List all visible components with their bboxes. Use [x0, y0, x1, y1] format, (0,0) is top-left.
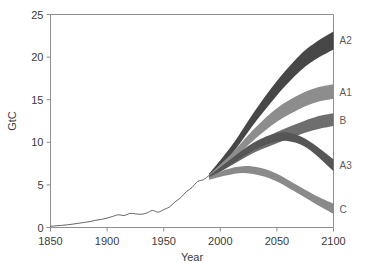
y-tick-label: 0 [37, 222, 43, 234]
series-label-a3: A3 [340, 160, 353, 171]
scenario-bands [209, 32, 334, 214]
y-tick-label: 5 [37, 179, 43, 191]
y-tick-label: 25 [31, 9, 43, 21]
x-tick-label: 2000 [208, 235, 232, 247]
scenario-band-a2 [209, 32, 334, 178]
series-label-a2: A2 [340, 35, 353, 46]
series-label-b: B [340, 115, 347, 126]
y-axis-title: GtC [6, 111, 18, 131]
historical-line-path [51, 176, 209, 227]
x-tick-label: 2100 [321, 235, 345, 247]
x-tick-label: 1850 [38, 235, 62, 247]
series-label-a1: A1 [340, 87, 353, 98]
series-label-c: C [340, 204, 347, 215]
chart-canvas: 0510152025 185019001950200020502100 A2A1… [0, 0, 366, 263]
y-axis-ticks: 0510152025 [31, 9, 50, 234]
y-tick-label: 10 [31, 136, 43, 148]
y-tick-label: 15 [31, 94, 43, 106]
x-axis-ticks: 185019001950200020502100 [38, 228, 345, 247]
emissions-scenario-chart: 0510152025 185019001950200020502100 A2A1… [0, 0, 366, 263]
x-axis-title: Year [181, 251, 204, 263]
x-tick-label: 2050 [265, 235, 289, 247]
historical-emissions-line [51, 176, 209, 227]
x-tick-label: 1950 [151, 235, 175, 247]
plot-frame [51, 15, 334, 228]
scenario-band-c [209, 166, 334, 214]
x-tick-label: 1900 [95, 235, 119, 247]
series-labels: A2A1BA3C [340, 35, 353, 214]
y-tick-label: 20 [31, 51, 43, 63]
